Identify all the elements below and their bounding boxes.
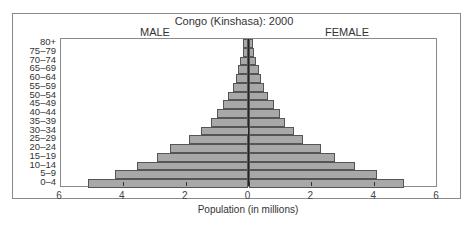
female-bar xyxy=(249,109,280,118)
male-bar xyxy=(228,92,248,101)
x-tick-label: 0 xyxy=(238,190,258,201)
male-header: MALE xyxy=(140,26,170,38)
female-bar xyxy=(249,92,269,101)
x-tick-label: 2 xyxy=(175,190,195,201)
zero-axis-line xyxy=(248,39,249,186)
x-tick-label: 4 xyxy=(112,190,132,201)
female-bar xyxy=(249,48,254,57)
male-bar xyxy=(217,109,248,118)
age-group-label: 60–64 xyxy=(30,73,56,82)
male-bar xyxy=(238,65,248,74)
age-group-label: 40–44 xyxy=(30,108,56,117)
female-header: FEMALE xyxy=(325,26,369,38)
female-bar xyxy=(249,100,274,109)
plot-area xyxy=(60,38,437,187)
male-bar xyxy=(236,74,249,83)
male-bar xyxy=(157,153,248,162)
age-group-label: 45–49 xyxy=(30,99,56,108)
x-tick-mark xyxy=(186,182,187,186)
age-group-label: 15–19 xyxy=(30,152,56,161)
male-bar xyxy=(88,179,248,188)
age-group-label: 65–69 xyxy=(30,64,56,73)
female-bar xyxy=(249,127,295,136)
male-bar xyxy=(115,170,249,179)
x-tick-label: 6 xyxy=(49,190,69,201)
age-group-label: 80+ xyxy=(40,38,56,47)
female-bar xyxy=(249,153,335,162)
x-tick-label: 6 xyxy=(426,190,446,201)
age-group-label: 0–4 xyxy=(40,178,56,187)
female-bar xyxy=(249,57,257,66)
age-group-label: 75–79 xyxy=(30,47,56,56)
female-bar xyxy=(249,39,253,48)
female-bar xyxy=(249,162,356,171)
x-tick-label: 2 xyxy=(300,190,320,201)
female-bar xyxy=(249,179,405,188)
age-group-label: 10–14 xyxy=(30,161,56,170)
x-tick-label: 4 xyxy=(363,190,383,201)
x-axis-label: Population (in millions) xyxy=(0,204,468,215)
female-bar xyxy=(249,65,259,74)
male-bar xyxy=(211,118,249,127)
age-group-label: 20–24 xyxy=(30,143,56,152)
female-bar xyxy=(249,118,285,127)
x-tick-mark xyxy=(374,182,375,186)
male-bar xyxy=(201,127,248,136)
age-group-label: 70–74 xyxy=(30,56,56,65)
age-group-label: 50–54 xyxy=(30,91,56,100)
chart-title: Congo (Kinshasa): 2000 xyxy=(0,15,468,27)
female-bar xyxy=(249,144,321,153)
female-bar xyxy=(249,83,265,92)
male-bar xyxy=(137,162,249,171)
male-bar xyxy=(170,144,249,153)
x-tick-mark xyxy=(249,182,250,186)
male-bar xyxy=(233,83,249,92)
age-group-label: 30–34 xyxy=(30,126,56,135)
male-bar xyxy=(189,135,249,144)
female-bar xyxy=(249,135,304,144)
age-group-label: 35–39 xyxy=(30,117,56,126)
female-bar xyxy=(249,170,378,179)
x-tick-mark xyxy=(311,182,312,186)
x-tick-mark xyxy=(123,182,124,186)
age-group-label: 55–59 xyxy=(30,82,56,91)
age-group-label: 25–29 xyxy=(30,134,56,143)
age-group-label: 5–9 xyxy=(40,169,56,178)
female-bar xyxy=(249,74,262,83)
male-bar xyxy=(223,100,248,109)
